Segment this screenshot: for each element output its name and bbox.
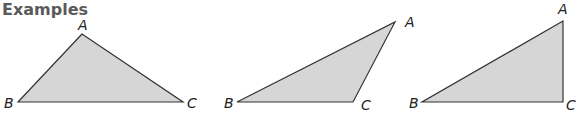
vertex-label-c: C	[361, 97, 371, 113]
vertex-label-a: A	[404, 14, 415, 30]
right-triangle: BCA	[409, 1, 576, 113]
obtuse-triangle: BCA	[224, 14, 415, 113]
vertex-label-c: C	[566, 97, 576, 113]
vertex-label-a: A	[77, 17, 88, 33]
triangle-examples-figure: ABCBCABCA	[0, 0, 580, 117]
obtuse-apex-triangle: ABC	[4, 17, 197, 111]
vertex-label-b: B	[4, 95, 14, 111]
triangle-shape	[422, 21, 563, 102]
vertex-label-b: B	[224, 95, 234, 111]
triangle-shape	[237, 22, 395, 102]
vertex-label-a: A	[557, 1, 568, 17]
vertex-label-c: C	[187, 95, 197, 111]
triangle-shape	[18, 34, 183, 102]
vertex-label-b: B	[409, 95, 419, 111]
